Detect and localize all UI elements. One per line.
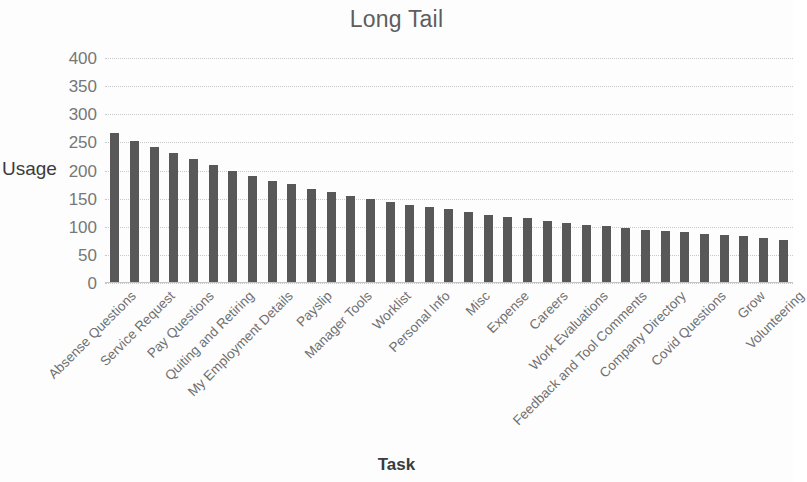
bar[interactable] bbox=[169, 153, 178, 283]
bar-slot bbox=[478, 58, 498, 283]
bar-slot bbox=[302, 58, 322, 283]
bar[interactable] bbox=[327, 192, 336, 283]
bar-slot bbox=[380, 58, 400, 283]
bar[interactable] bbox=[307, 189, 316, 284]
bar[interactable] bbox=[779, 240, 788, 283]
bar-slot bbox=[439, 58, 459, 283]
bar[interactable] bbox=[543, 221, 552, 283]
bar[interactable] bbox=[641, 230, 650, 283]
bar-slot bbox=[282, 58, 302, 283]
bar-slot bbox=[675, 58, 695, 283]
chart-title: Long Tail bbox=[0, 6, 793, 33]
bar-slot bbox=[223, 58, 243, 283]
y-axis-tick-label: 300 bbox=[40, 106, 97, 123]
bar-slot bbox=[321, 58, 341, 283]
bar-slot bbox=[655, 58, 675, 283]
bar[interactable] bbox=[386, 202, 395, 283]
bar[interactable] bbox=[582, 225, 591, 284]
bar-slot bbox=[537, 58, 557, 283]
bar[interactable] bbox=[150, 147, 159, 283]
bar-slot bbox=[714, 58, 734, 283]
bar[interactable] bbox=[189, 159, 198, 283]
bar[interactable] bbox=[130, 141, 139, 283]
bar-slot bbox=[636, 58, 656, 283]
bar[interactable] bbox=[228, 171, 237, 284]
bar-slot bbox=[361, 58, 381, 283]
bar[interactable] bbox=[680, 232, 689, 283]
x-axis-tick-label: Expense bbox=[485, 289, 532, 336]
bar[interactable] bbox=[209, 165, 218, 283]
bar-slot bbox=[144, 58, 164, 283]
bar[interactable] bbox=[464, 212, 473, 283]
y-axis-tick-label: 200 bbox=[40, 162, 97, 179]
bar[interactable] bbox=[444, 209, 453, 283]
bar-slot bbox=[420, 58, 440, 283]
bar[interactable] bbox=[759, 238, 768, 283]
bar[interactable] bbox=[523, 218, 532, 283]
y-axis-tick-label: 400 bbox=[40, 50, 97, 67]
plot-area bbox=[105, 58, 793, 283]
bar[interactable] bbox=[405, 205, 414, 283]
x-axis-tick-label: Covid Questions bbox=[648, 289, 728, 369]
bar[interactable] bbox=[268, 181, 277, 283]
x-axis-tick-labels: Absense QuestionsService RequestPay Ques… bbox=[105, 283, 793, 433]
bar[interactable] bbox=[110, 133, 119, 283]
bar-slot bbox=[557, 58, 577, 283]
y-axis-tick-label: 350 bbox=[40, 78, 97, 95]
bar[interactable] bbox=[366, 199, 375, 283]
x-axis-tick-label: Misc bbox=[463, 289, 492, 318]
bar-slot bbox=[341, 58, 361, 283]
bar[interactable] bbox=[621, 228, 630, 283]
bar-slot bbox=[459, 58, 479, 283]
bar-slot bbox=[577, 58, 597, 283]
bar-slot bbox=[105, 58, 125, 283]
y-axis-tick-label: 0 bbox=[40, 275, 97, 292]
bar[interactable] bbox=[602, 226, 611, 283]
y-axis-tick-label: 50 bbox=[40, 246, 97, 263]
bar[interactable] bbox=[346, 196, 355, 283]
bar-slot bbox=[754, 58, 774, 283]
bar[interactable] bbox=[503, 217, 512, 283]
bar-slot bbox=[695, 58, 715, 283]
bar-slot bbox=[164, 58, 184, 283]
bar[interactable] bbox=[661, 231, 670, 283]
x-axis-title: Task bbox=[0, 455, 793, 475]
y-axis-tick-label: 250 bbox=[40, 134, 97, 151]
bar-slot bbox=[125, 58, 145, 283]
bar-slot bbox=[616, 58, 636, 283]
bar-slot bbox=[203, 58, 223, 283]
y-axis-tick-label: 150 bbox=[40, 190, 97, 207]
bar-series bbox=[105, 58, 793, 283]
bar-slot bbox=[262, 58, 282, 283]
bar[interactable] bbox=[720, 235, 729, 283]
y-axis-tick-label: 100 bbox=[40, 218, 97, 235]
bar[interactable] bbox=[287, 184, 296, 283]
bar-slot bbox=[400, 58, 420, 283]
bar-slot bbox=[734, 58, 754, 283]
bar[interactable] bbox=[484, 215, 493, 283]
bar[interactable] bbox=[739, 236, 748, 283]
bar-slot bbox=[243, 58, 263, 283]
bar-slot bbox=[498, 58, 518, 283]
bar[interactable] bbox=[425, 207, 434, 283]
bar[interactable] bbox=[248, 176, 257, 283]
bar-slot bbox=[773, 58, 793, 283]
bar-slot bbox=[184, 58, 204, 283]
bar[interactable] bbox=[700, 234, 709, 283]
bar[interactable] bbox=[562, 223, 571, 283]
bar-slot bbox=[518, 58, 538, 283]
bar-slot bbox=[596, 58, 616, 283]
x-axis-tick-label: Grow bbox=[735, 289, 767, 321]
y-axis-tick-labels: 400350300250200150100500 bbox=[40, 58, 97, 283]
